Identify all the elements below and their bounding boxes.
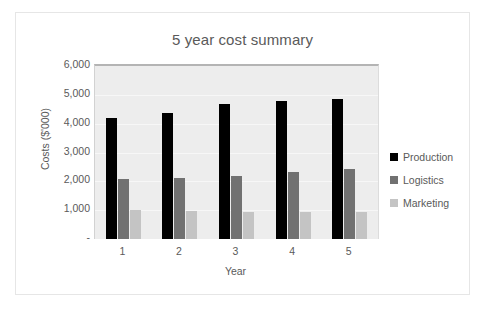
legend-item-marketing[interactable]: Marketing: [390, 197, 484, 209]
bar-logistics-3: [231, 176, 242, 239]
bar-group: [276, 66, 311, 239]
chart-frame: 5 year cost summary Costs ($'000) 6,0005…: [15, 12, 470, 295]
chart-title: 5 year cost summary: [16, 31, 469, 48]
bar-production-1: [106, 118, 117, 239]
legend-label: Logistics: [403, 174, 444, 186]
legend-swatch-icon: [390, 199, 398, 207]
bar-groups: [95, 66, 378, 239]
bar-production-3: [219, 104, 230, 239]
bar-marketing-4: [300, 212, 311, 239]
y-axis-tick-label: -: [46, 232, 90, 243]
bar-group: [106, 66, 141, 239]
bar-logistics-4: [288, 172, 299, 239]
legend-item-logistics[interactable]: Logistics: [390, 174, 484, 186]
x-axis-tick-label: 4: [264, 245, 320, 257]
y-axis-tick-label: 3,000: [46, 145, 90, 156]
legend-swatch-icon: [390, 153, 398, 161]
chart-legend: ProductionLogisticsMarketing: [390, 151, 484, 220]
bar-marketing-1: [130, 210, 141, 239]
bar-group: [162, 66, 197, 239]
y-axis-tick-label: 6,000: [46, 59, 90, 70]
y-axis-tick-label: 4,000: [46, 116, 90, 127]
x-axis-tick-label: 5: [321, 245, 377, 257]
x-axis-title: Year: [94, 265, 377, 277]
legend-swatch-icon: [390, 176, 398, 184]
legend-label: Production: [403, 151, 453, 163]
bar-production-4: [276, 101, 287, 239]
bar-production-5: [332, 99, 343, 239]
bar-group: [332, 66, 367, 239]
legend-label: Marketing: [403, 197, 449, 209]
bar-marketing-5: [356, 212, 367, 239]
bar-marketing-3: [243, 212, 254, 239]
x-axis-tick-label: 3: [207, 245, 263, 257]
legend-item-production[interactable]: Production: [390, 151, 484, 163]
x-axis-tick-label: 2: [151, 245, 207, 257]
x-axis-tick-labels: 12345: [94, 245, 377, 257]
y-axis-tick-label: 2,000: [46, 174, 90, 185]
bar-logistics-2: [174, 178, 185, 239]
y-axis-tick-label: 5,000: [46, 88, 90, 99]
bar-logistics-1: [118, 179, 129, 239]
bar-marketing-2: [186, 211, 197, 239]
x-axis-tick-label: 1: [94, 245, 150, 257]
bar-logistics-5: [344, 169, 355, 239]
bar-production-2: [162, 113, 173, 239]
y-axis-tick-label: 1,000: [46, 203, 90, 214]
y-axis-tick-labels: 6,0005,0004,0003,0002,0001,000-: [46, 64, 90, 237]
plot-area: [94, 64, 379, 239]
bar-group: [219, 66, 254, 239]
